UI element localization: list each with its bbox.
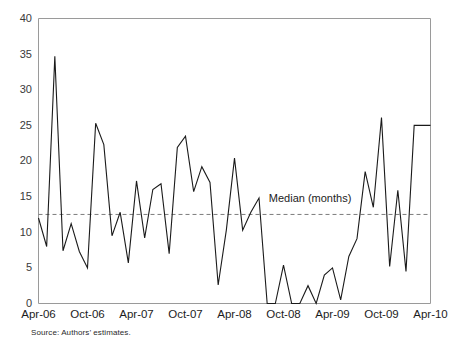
x-tick-label-Apr-06: Apr-06 xyxy=(21,308,56,320)
line-chart: 0510152025303540 Median (months) Apr-06O… xyxy=(0,0,449,320)
y-tick-label-40: 40 xyxy=(20,12,32,24)
y-tick-label-30: 30 xyxy=(20,83,32,95)
data-series-group xyxy=(39,56,431,303)
series-line-time-to-completion xyxy=(39,56,431,303)
y-tick-label-35: 35 xyxy=(20,48,32,60)
x-tick-label-Oct-08: Oct-08 xyxy=(266,308,301,320)
x-tick-label-Apr-09: Apr-09 xyxy=(315,308,350,320)
source-note: Source: Authors’ estimates. xyxy=(31,328,131,337)
x-axis-tick-labels: Apr-06Oct-06Apr-07Oct-07Apr-08Oct-08Apr-… xyxy=(21,308,448,320)
x-tick-label-Apr-08: Apr-08 xyxy=(217,308,252,320)
x-tick-label-Oct-09: Oct-09 xyxy=(364,308,399,320)
x-tick-label-Oct-07: Oct-07 xyxy=(168,308,203,320)
y-tick-label-20: 20 xyxy=(20,154,32,166)
plot-area-container: 0510152025303540 Median (months) Apr-06O… xyxy=(0,0,449,320)
chart-figure: 0510152025303540 Median (months) Apr-06O… xyxy=(0,0,449,347)
y-tick-label-5: 5 xyxy=(26,261,32,273)
median-annotation-label: Median (months) xyxy=(269,192,352,204)
x-tick-label-Apr-07: Apr-07 xyxy=(119,308,154,320)
x-tick-label-Oct-06: Oct-06 xyxy=(70,308,105,320)
y-tick-label-15: 15 xyxy=(20,190,32,202)
median-label-group: Median (months) xyxy=(269,192,352,204)
y-tick-label-25: 25 xyxy=(20,119,32,131)
y-tick-label-10: 10 xyxy=(20,226,32,238)
x-tick-label-Apr-10: Apr-10 xyxy=(413,308,448,320)
y-axis-tick-labels: 0510152025303540 xyxy=(20,12,32,309)
